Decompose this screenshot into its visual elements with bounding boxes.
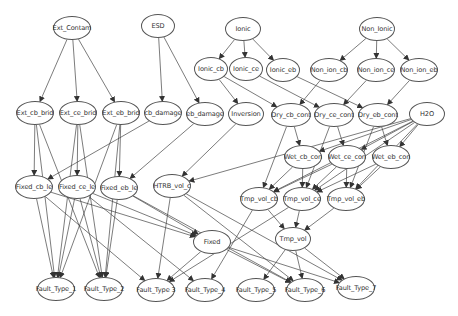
edge-ext_eb_brid-to-fault_type_1 <box>60 125 116 278</box>
edge-ext_ce_brid-to-fault_type_2 <box>80 125 102 277</box>
node-dry-ce-cont: Dry_ce_cont <box>314 103 354 127</box>
node-fault-type-1: Fault_Type_1 <box>37 277 75 301</box>
node-cb-damage: cb_damage <box>144 101 182 125</box>
node-inversion: Inversion <box>228 102 264 126</box>
node-wet-eb-con: Wet_eb_con <box>372 145 410 169</box>
edge-ext_contam-to-ext_eb_brid <box>79 39 115 101</box>
edge-wet_cb_con-to-tmp_vol_cb <box>269 167 292 189</box>
node-tmp-vol-ce: Tmp_vol_ce <box>283 187 321 211</box>
node-fixed: Fixed <box>193 230 231 254</box>
edge-ionic-to-ionic_cb <box>219 40 234 59</box>
node-ext-ce-brid: Ext_ce_brid <box>59 101 97 125</box>
edge-fixed_ce_le-to-fault_type_4 <box>89 196 194 280</box>
edge-dry_ce_cont-to-wet_ce_con <box>338 127 344 145</box>
bayesian-network-diagram: Ext_ContamESDIonicNon_IonicIonic_cbIonic… <box>0 0 458 316</box>
edge-wet_eb_con-to-tmp_vol_eb <box>357 167 381 189</box>
edge-tmp_vol_eb-to-tmp_vol <box>305 208 334 230</box>
node-dry-cb-cont: Dry_cb_cont <box>271 103 311 127</box>
edge-ext_cb_brid-to-fault_type_1 <box>36 125 54 277</box>
node-fault-type-6: Fault_Type_6 <box>286 278 324 302</box>
edge-ionic-to-ionic_eb <box>253 39 274 60</box>
node-wet-cb-con: Wet_cb_con <box>284 145 322 169</box>
edge-ext_cb_brid-to-fixed_cb_le <box>34 125 35 175</box>
node-non-ion-eb: Non_ion_eb <box>400 58 438 82</box>
node-esd: ESD <box>141 14 175 38</box>
edge-tmp_vol-to-fault_type_7 <box>305 248 344 279</box>
node-fault-type-7: Fault_Type_7 <box>337 276 375 300</box>
node-fault-type-3: Fault_Type 3 <box>137 278 175 302</box>
edge-ext_eb_brid-to-fault_type_2 <box>105 125 120 277</box>
edge-ext_contam-to-ext_ce_brid <box>73 40 77 101</box>
node-ionic: Ionic <box>225 17 261 41</box>
node-non-ion-ce: Non_ion_ce <box>357 58 395 82</box>
node-tmp-vol-eb: Tmp_vol_eb <box>327 187 365 211</box>
edge-fixed_ce_le-to-fault_type_1 <box>58 199 74 277</box>
edge-non_ion_ce-to-dry_ce_cont <box>344 80 367 104</box>
node-ionic-ce: Ionic_ce <box>229 57 263 81</box>
edge-inversion-to-htrb_vol_c <box>182 124 235 176</box>
edge-esd-to-cb_damage <box>159 38 163 101</box>
edge-ext_contam-to-ext_cb_brid <box>40 40 67 102</box>
node-h2o: H2O <box>409 102 445 126</box>
node-fault-type-5: Fault_Type_5 <box>237 278 275 302</box>
node-wet-ce-con: Wet_ce_con <box>328 145 366 169</box>
edge-eb_damage-to-fixed_eb_le <box>130 124 194 179</box>
node-ionic-eb: Ionic_eb <box>266 58 300 82</box>
edge-fixed-to-fault_type_3 <box>167 252 200 281</box>
node-fault-type-2: Fault_Type_2 <box>85 277 123 301</box>
node-ext-eb-brid: Ext_eb_brid <box>102 101 140 125</box>
node-non-ion-cb: Non_ion_cb <box>310 58 348 82</box>
edge-tmp_vol-to-fault_type_6 <box>296 251 302 278</box>
node-eb-damage: eb_damage <box>186 102 224 126</box>
edge-fixed_ce_le-to-fixed <box>93 194 196 236</box>
node-non-ionic: Non_Ionic <box>359 17 395 41</box>
edge-tmp_vol_ce-to-tmp_vol <box>296 211 300 227</box>
node-fault-type-4: Fault_Type_4 <box>186 278 224 302</box>
edge-non_ionic-to-non_ion_cb <box>340 38 366 60</box>
edge-non_ionic-to-non_ion_eb <box>387 39 409 60</box>
edge-fixed_cb_le-to-fault_type_1 <box>37 199 54 277</box>
edge-fixed-to-fault_type_7 <box>229 247 339 282</box>
node-ionic-cb: Ionic_cb <box>194 57 228 81</box>
edge-non_ion_eb-to-dry_eb_cont <box>388 80 410 104</box>
edge-cb_damage-to-fixed_cb_le <box>48 121 149 179</box>
node-fixed-eb-le: Fixed_eb_le <box>100 176 138 200</box>
node-htrb-vol-c: HTRB_vol_c <box>153 174 191 198</box>
edge-fixed_ce_le-to-fault_type_2 <box>80 199 101 277</box>
edge-h2o-to-wet_eb_con <box>400 124 418 146</box>
node-fixed-ce-le: Fixed_ce_le <box>58 175 96 199</box>
node-ext-cb-brid: Ext_cb_brid <box>16 101 54 125</box>
edge-dry_cb_cont-to-wet_cb_con <box>294 127 299 145</box>
node-fixed-cb-le: Fixed_cb_le <box>15 175 53 199</box>
edge-ext_eb_brid-to-fixed_eb_le <box>119 125 120 176</box>
edge-non_ion_cb-to-dry_cb_cont <box>300 81 320 105</box>
edge-ext_ce_brid-to-fault_type_1 <box>57 125 76 277</box>
edge-ext_ce_brid-to-fixed_ce_le <box>77 125 78 175</box>
edge-ionic-to-ionic_ce <box>244 41 245 57</box>
node-ext-contam: Ext_Contam <box>53 16 91 40</box>
node-dry-eb-cont: Dry_eb_cont <box>358 103 398 127</box>
node-tmp-vol: Tmp_vol <box>275 227 311 251</box>
node-tmp-vol-cb: Tmp_vol_cb <box>240 187 278 211</box>
